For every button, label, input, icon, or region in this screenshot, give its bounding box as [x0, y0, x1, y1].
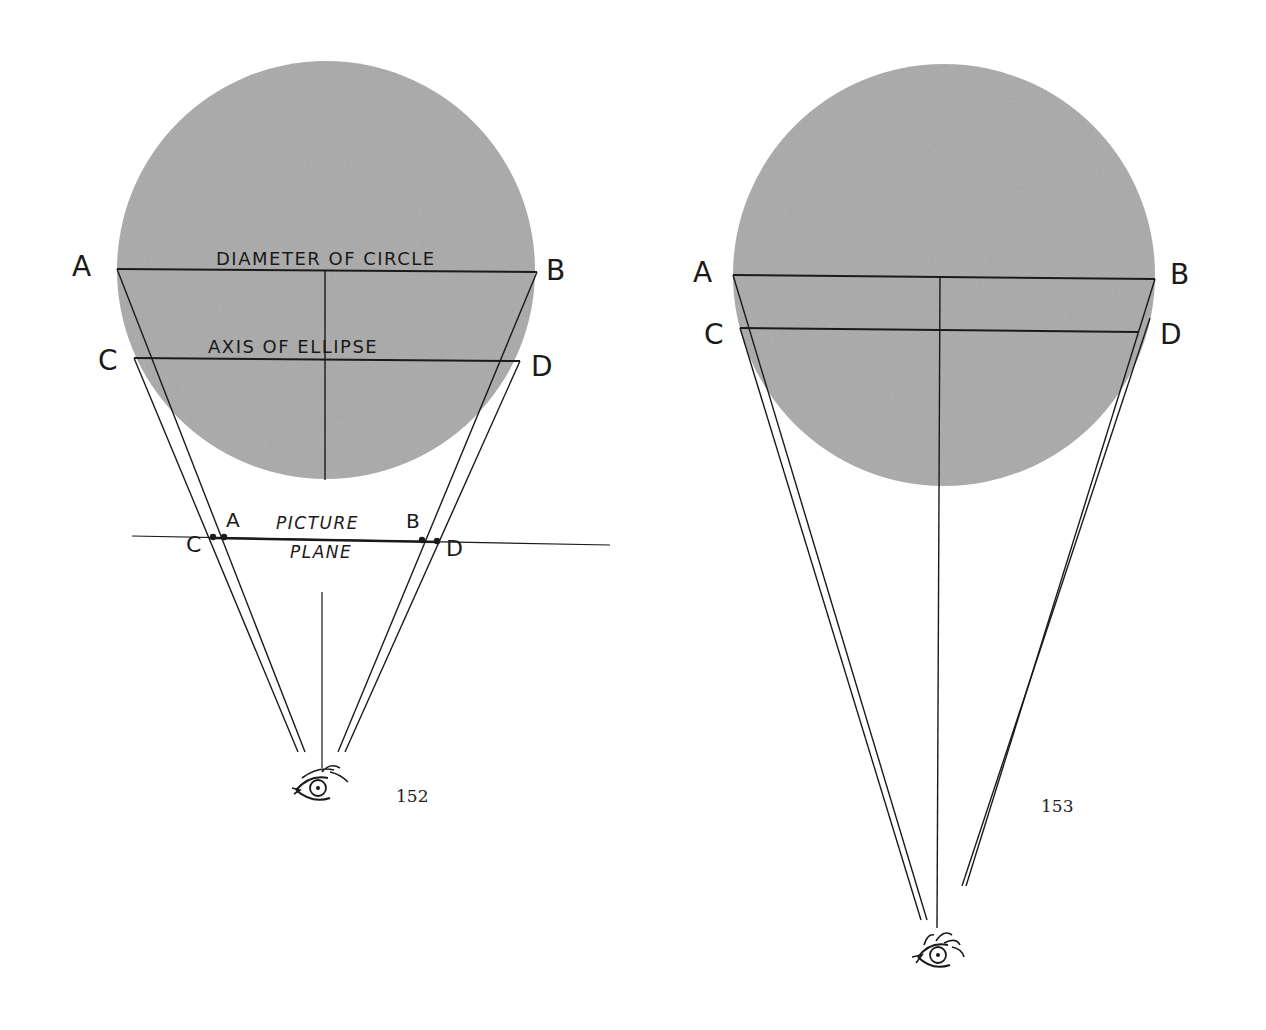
- label-C: C: [98, 344, 118, 377]
- eye-icon: [292, 766, 348, 800]
- point-B: [419, 537, 425, 543]
- label-B: B: [546, 254, 565, 287]
- label-A: A: [693, 256, 712, 289]
- plane-label-A: A: [226, 508, 240, 532]
- picture-label: PICTURE: [276, 513, 359, 533]
- plane-label: PLANE: [290, 542, 352, 562]
- label-D: D: [1160, 318, 1182, 351]
- plane-label-D: D: [446, 536, 463, 561]
- label-A: A: [72, 250, 91, 283]
- point-C: [210, 534, 216, 540]
- diameter-label: DIAMETER OF CIRCLE: [216, 248, 436, 269]
- eye-icon: [912, 933, 964, 967]
- figure-number: 153: [1041, 796, 1073, 816]
- label-C: C: [704, 318, 724, 351]
- plane-label-C: C: [186, 532, 201, 557]
- figure-153: A B C D 153: [693, 64, 1189, 967]
- figure-152: A B C D DIAMETER OF CIRCLE AXIS OF ELLIP…: [72, 61, 610, 806]
- axis-label: AXIS OF ELLIPSE: [208, 336, 378, 357]
- perspective-diagram: A B C D DIAMETER OF CIRCLE AXIS OF ELLIP…: [0, 0, 1266, 1030]
- label-B: B: [1170, 258, 1189, 291]
- label-D: D: [531, 350, 553, 383]
- figure-number: 152: [396, 786, 428, 806]
- point-D: [434, 538, 440, 544]
- plane-label-B: B: [406, 509, 420, 533]
- point-A: [221, 534, 227, 540]
